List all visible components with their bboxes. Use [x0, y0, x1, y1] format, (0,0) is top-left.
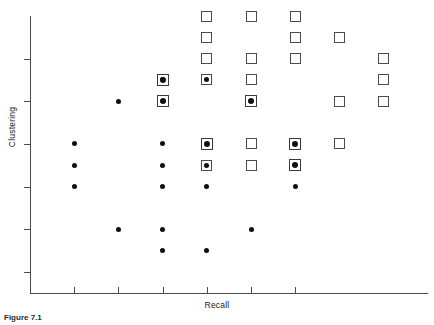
dot-marker-icon [160, 184, 165, 189]
data-point-square [378, 95, 390, 107]
dot-marker-icon [248, 98, 254, 104]
y-axis-label: Clustering [7, 82, 17, 172]
square-marker-icon [201, 53, 212, 64]
caption-label: Figure 7.1 [4, 313, 42, 322]
dot-marker-icon [116, 99, 121, 104]
y-tick-2 [24, 187, 31, 188]
y-tick-1 [24, 229, 31, 230]
data-point-square [334, 31, 346, 43]
data-point-dot [201, 181, 213, 193]
data-point-dot [157, 138, 169, 150]
scatter-plot [0, 0, 434, 325]
data-point-dot [157, 223, 169, 235]
data-point-square [245, 53, 257, 65]
data-point-dot [245, 223, 257, 235]
data-point-square-with-dot [245, 95, 257, 107]
square-marker-icon [246, 138, 257, 149]
y-tick-0 [24, 272, 31, 273]
data-point-square [245, 159, 257, 171]
data-point-square [334, 138, 346, 150]
dot-marker-icon [204, 141, 210, 147]
square-marker-icon [378, 96, 389, 107]
square-marker-icon [290, 32, 301, 43]
data-point-square-with-dot [201, 138, 213, 150]
data-point-square [201, 53, 213, 65]
square-marker-icon [290, 11, 301, 22]
dot-marker-icon [160, 248, 165, 253]
data-point-square [245, 10, 257, 22]
data-point-dot [289, 181, 301, 193]
figure-container: Recall Clustering Figure 7.1 [0, 0, 434, 325]
data-point-square [378, 74, 390, 86]
data-point-dot [157, 244, 169, 256]
data-point-dot [112, 95, 124, 107]
x-tick-4 [251, 287, 252, 294]
y-tick-3 [24, 144, 31, 145]
data-point-dot [157, 159, 169, 171]
dot-marker-icon [160, 227, 165, 232]
dot-marker-icon [204, 184, 209, 189]
square-marker-icon [201, 160, 212, 171]
dot-marker-icon [204, 248, 209, 253]
dot-marker-icon [292, 162, 298, 168]
data-point-square [378, 53, 390, 65]
square-marker-icon [378, 53, 389, 64]
figure-caption: Figure 7.1 [4, 313, 434, 322]
dot-marker-icon [292, 141, 298, 147]
square-marker-icon [201, 74, 212, 85]
dot-marker-icon [160, 98, 166, 104]
square-marker-icon [246, 74, 257, 85]
square-marker-icon [334, 96, 345, 107]
square-marker-icon [246, 53, 257, 64]
dot-marker-icon [249, 227, 254, 232]
dot-marker-icon [160, 163, 165, 168]
square-marker-icon [334, 138, 345, 149]
x-axis-line [30, 293, 428, 294]
data-point-square [289, 10, 301, 22]
data-point-square [201, 10, 213, 22]
data-point-square [201, 159, 213, 171]
data-point-dot [157, 181, 169, 193]
y-tick-5 [24, 59, 31, 60]
data-point-square [289, 31, 301, 43]
data-point-dot [112, 223, 124, 235]
y-tick-4 [24, 101, 31, 102]
data-point-dot [68, 138, 80, 150]
data-point-dot [68, 159, 80, 171]
data-point-dot [201, 244, 213, 256]
data-point-square-with-dot [289, 138, 301, 150]
data-point-square-with-dot [157, 95, 169, 107]
dot-marker-icon [293, 184, 298, 189]
data-point-square [245, 138, 257, 150]
dot-marker-icon [72, 141, 77, 146]
square-marker-icon [290, 53, 301, 64]
dot-marker-icon [72, 163, 77, 168]
data-point-square [245, 74, 257, 86]
x-tick-3 [207, 287, 208, 294]
data-point-square [201, 74, 213, 86]
dot-marker-icon [160, 77, 166, 83]
x-axis-label: Recall [0, 300, 434, 310]
square-marker-icon [201, 11, 212, 22]
data-point-square [334, 95, 346, 107]
square-marker-icon [334, 32, 345, 43]
square-marker-icon [201, 32, 212, 43]
data-point-square [201, 31, 213, 43]
dot-marker-icon [160, 141, 165, 146]
x-tick-2 [163, 287, 164, 294]
x-tick-5 [295, 287, 296, 294]
x-tick-1 [118, 287, 119, 294]
square-marker-icon [246, 160, 257, 171]
data-point-dot [68, 181, 80, 193]
data-point-square [289, 53, 301, 65]
dot-marker-icon [116, 227, 121, 232]
dot-marker-icon [72, 184, 77, 189]
data-point-square-with-dot [157, 74, 169, 86]
square-marker-icon [378, 74, 389, 85]
data-point-square-with-dot [289, 159, 301, 171]
x-tick-0 [74, 287, 75, 294]
square-marker-icon [246, 11, 257, 22]
